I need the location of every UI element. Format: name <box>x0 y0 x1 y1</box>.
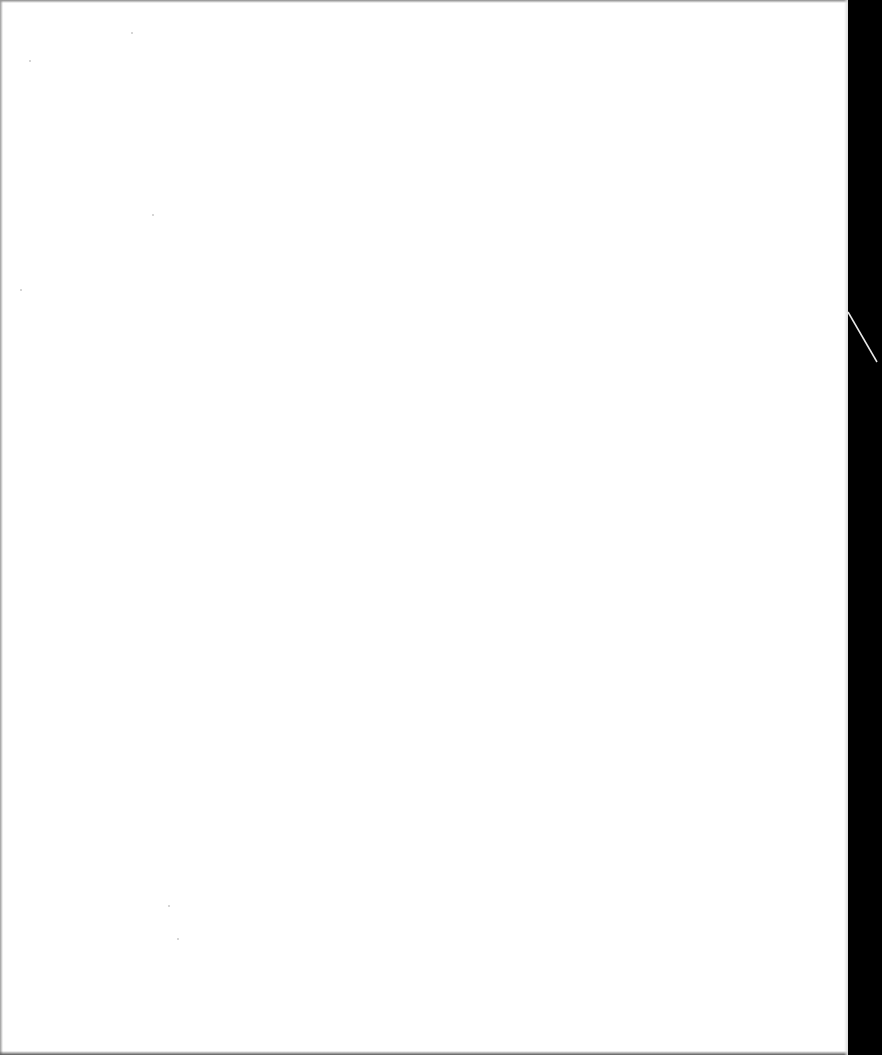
scanned-document <box>0 0 882 1055</box>
scan-speck <box>177 938 179 940</box>
blank-page <box>0 0 848 1055</box>
scan-speck <box>29 60 31 62</box>
scan-speck <box>168 905 170 907</box>
page-top-edge-shadow <box>0 0 848 3</box>
scanner-background-strip <box>848 0 882 1055</box>
page-bottom-edge-shadow <box>0 1051 848 1055</box>
scan-speck <box>152 214 154 216</box>
page-left-edge-shadow <box>0 0 3 1055</box>
scan-speck <box>131 32 133 34</box>
scan-speck <box>20 289 22 291</box>
scan-artifact-line <box>846 310 882 366</box>
